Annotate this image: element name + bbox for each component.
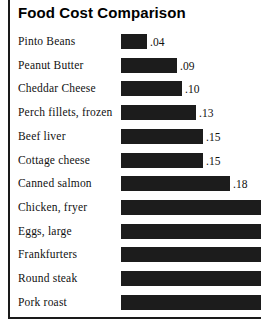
bar-value-label: .10 bbox=[185, 82, 199, 96]
chart-figure: Food Cost Comparison Pinto Beans.04Peanu… bbox=[0, 0, 261, 336]
bar-category-label: Round steak bbox=[18, 271, 77, 286]
bar-row: Pork roast bbox=[0, 294, 261, 318]
bar-track bbox=[121, 271, 261, 286]
bar-fill bbox=[121, 105, 196, 120]
bar-track bbox=[121, 247, 261, 262]
bar-category-label: Beef liver bbox=[18, 129, 66, 144]
bar-row: Frankfurters bbox=[0, 246, 261, 270]
bar-value-label: .15 bbox=[206, 130, 220, 144]
bar-track bbox=[121, 58, 177, 73]
bar-row: Round steak bbox=[0, 270, 261, 294]
bar-category-label: Cheddar Cheese bbox=[18, 81, 96, 96]
bar-chart-plot-area: Pinto Beans.04Peanut Butter.09Cheddar Ch… bbox=[0, 33, 261, 317]
bar-track bbox=[121, 224, 261, 239]
bar-track bbox=[121, 129, 203, 144]
bar-fill bbox=[121, 247, 261, 262]
bar-category-label: Chicken, fryer bbox=[18, 200, 87, 215]
bar-row: Perch fillets, frozen.13 bbox=[0, 104, 261, 128]
bar-category-label: Canned salmon bbox=[18, 176, 92, 191]
bar-row: Eggs, large bbox=[0, 223, 261, 247]
bar-track bbox=[121, 295, 261, 310]
bar-category-label: Perch fillets, frozen bbox=[18, 105, 113, 120]
bar-category-label: Peanut Butter bbox=[18, 58, 84, 73]
bar-category-label: Cottage cheese bbox=[18, 153, 90, 168]
bar-fill bbox=[121, 200, 261, 215]
bar-value-label: .04 bbox=[150, 35, 164, 49]
bar-category-label: Eggs, large bbox=[18, 224, 72, 239]
bar-row: Peanut Butter.09 bbox=[0, 57, 261, 81]
bar-row: Beef liver.15 bbox=[0, 128, 261, 152]
bar-fill bbox=[121, 176, 230, 191]
bar-track bbox=[121, 200, 261, 215]
bar-value-label: .18 bbox=[233, 177, 247, 191]
bar-value-label: .09 bbox=[180, 59, 194, 73]
bar-value-label: .15 bbox=[206, 154, 220, 168]
bar-row: Canned salmon.18 bbox=[0, 175, 261, 199]
bar-row: Chicken, fryer bbox=[0, 199, 261, 223]
bar-fill bbox=[121, 224, 261, 239]
bar-category-label: Pinto Beans bbox=[18, 34, 75, 49]
bar-fill bbox=[121, 129, 203, 144]
bar-category-label: Frankfurters bbox=[18, 247, 77, 262]
bar-value-label: .13 bbox=[199, 106, 213, 120]
bar-track bbox=[121, 34, 147, 49]
bar-row: Cheddar Cheese.10 bbox=[0, 80, 261, 104]
bar-fill bbox=[121, 81, 182, 96]
bar-track bbox=[121, 153, 203, 168]
bar-row: Cottage cheese.15 bbox=[0, 152, 261, 176]
bar-track bbox=[121, 81, 182, 96]
bar-track bbox=[121, 176, 230, 191]
chart-title: Food Cost Comparison bbox=[18, 3, 186, 22]
bar-fill bbox=[121, 295, 261, 310]
bar-row: Pinto Beans.04 bbox=[0, 33, 261, 57]
bar-fill bbox=[121, 153, 203, 168]
bar-track bbox=[121, 105, 196, 120]
bar-fill bbox=[121, 58, 177, 73]
bar-fill bbox=[121, 34, 147, 49]
bar-fill bbox=[121, 271, 261, 286]
bar-category-label: Pork roast bbox=[18, 295, 67, 310]
